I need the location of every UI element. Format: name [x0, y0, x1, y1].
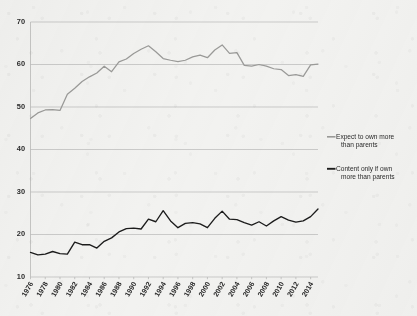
y-axis-tick-label: 30 [17, 187, 25, 196]
x-axis-tick-label: 1976 [19, 280, 35, 298]
x-axis-tick-label: 1980 [49, 280, 65, 298]
y-axis-tick-label: 40 [17, 144, 25, 153]
y-axis-tick-label: 60 [17, 59, 25, 68]
y-axis-tick-label: 10 [17, 272, 25, 281]
x-axis-tick-labels: 1976197819801982198419861988199019921994… [19, 280, 315, 298]
legend-label-1-line2: than parents [341, 141, 378, 149]
x-axis-tick-label: 2004 [226, 280, 242, 298]
y-axis-tick-label: 20 [17, 229, 25, 238]
series-line-1 [31, 45, 319, 119]
legend-label-1-line1: Expect to own more [336, 133, 395, 141]
legend-label-2-line1: Content only if own [336, 165, 392, 173]
x-axis-tick-label: 2006 [241, 280, 257, 298]
x-axis-tick-label: 1990 [123, 280, 139, 298]
y-axis-tick-labels: 10203040506070 [17, 17, 25, 281]
x-axis-tick-label: 2010 [270, 280, 286, 298]
legend-label-2-line2: more than parents [341, 173, 395, 181]
x-axis-tick-label: 1986 [93, 280, 109, 298]
x-axis-tick-label: 1996 [167, 280, 183, 298]
y-axis-tick-label: 50 [17, 102, 25, 111]
data-series [31, 45, 319, 255]
y-axis-tick-label: 70 [17, 17, 25, 26]
chart-container: 10203040506070 1976197819801982198419861… [0, 0, 417, 316]
x-axis-tick-label: 1994 [152, 280, 168, 298]
series-line-2 [31, 209, 319, 255]
x-axis-tick-label: 1984 [78, 280, 94, 298]
line-chart: 10203040506070 1976197819801982198419861… [0, 0, 417, 316]
x-axis-tick-label: 2002 [211, 280, 227, 298]
x-axis-tick-label: 2014 [300, 280, 316, 298]
x-axis-tick-label: 2008 [255, 280, 271, 298]
x-axis-tick-label: 1978 [34, 280, 50, 298]
chart-legend: Expect to own morethan parentsContent on… [327, 133, 395, 181]
x-axis-tick-label: 2012 [285, 280, 301, 298]
gridlines [31, 22, 319, 277]
x-axis-tick-label: 1988 [108, 280, 124, 298]
x-axis-tick-label: 1982 [64, 280, 80, 298]
x-axis-tick-label: 1998 [182, 280, 198, 298]
x-axis-tick-label: 1992 [137, 280, 153, 298]
x-axis-tick-label: 2000 [196, 280, 212, 298]
